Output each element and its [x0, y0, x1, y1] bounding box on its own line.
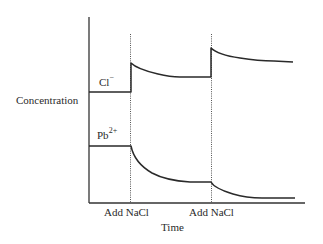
- y-axis-title: Concentration: [16, 94, 79, 106]
- add-nacl-label-2: Add NaCl: [189, 206, 234, 218]
- series-cl-line: [89, 48, 293, 92]
- series-pb-line: [89, 146, 295, 198]
- series-label-pb: Pb2+: [97, 126, 118, 141]
- series-label-cl: Cl−: [99, 73, 114, 88]
- concentration-time-chart: Cl− Pb2+ Concentration Time Add NaCl Add…: [0, 0, 323, 244]
- add-nacl-label-1: Add NaCl: [104, 206, 149, 218]
- x-axis-title: Time: [161, 221, 184, 233]
